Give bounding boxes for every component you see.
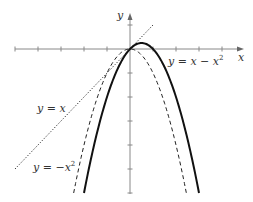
label-exponent: 2: [71, 160, 75, 168]
label-text: y = x: [37, 102, 66, 115]
label-y-equals-neg-x-squared: y = −x2: [33, 161, 75, 173]
label-text: y = −x: [33, 161, 71, 174]
label-exponent: 2: [219, 54, 223, 62]
function-graph: y x y = x − x2 y = x y = −x2: [0, 0, 253, 202]
y-axis: [128, 13, 133, 194]
x-axis-label: x: [238, 52, 244, 63]
y-axis-label: y: [117, 10, 123, 21]
y-axis-arrow-icon: [128, 13, 133, 20]
label-y-equals-x: y = x: [37, 103, 66, 114]
label-text: y = x − x: [168, 55, 219, 68]
label-y-equals-x-minus-x-squared: y = x − x2: [168, 55, 224, 67]
